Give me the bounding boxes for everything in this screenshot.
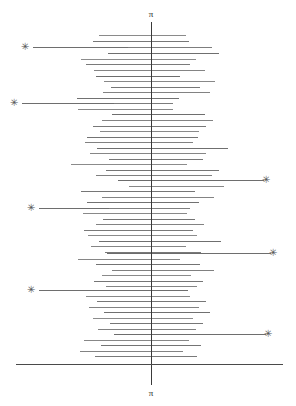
asterisk-marker: ✳ — [263, 329, 273, 339]
range-bar — [87, 202, 199, 203]
range-bar — [88, 235, 197, 236]
range-bar — [99, 241, 221, 242]
range-bar — [81, 59, 196, 60]
range-bar — [89, 307, 199, 308]
marker-leader-line — [211, 334, 266, 335]
range-bar — [108, 290, 188, 291]
range-bar — [112, 270, 214, 271]
range-bar — [104, 312, 210, 313]
asterisk-marker: ✳ — [26, 203, 36, 213]
range-bar — [93, 41, 189, 42]
asterisk-marker: ✳ — [9, 98, 19, 108]
range-bar — [80, 351, 183, 352]
range-bar — [93, 318, 193, 319]
range-bar — [102, 120, 213, 121]
range-bar — [78, 109, 173, 110]
range-bar — [94, 281, 203, 282]
range-bar — [83, 213, 187, 214]
marker-leader-line — [224, 180, 264, 181]
vertical-pi-axis — [151, 22, 152, 385]
range-bar — [102, 275, 191, 276]
range-bar — [103, 219, 195, 220]
range-bar — [84, 230, 193, 231]
range-bar — [96, 224, 204, 225]
range-bar — [96, 264, 200, 265]
range-bar — [107, 253, 205, 254]
range-bar — [106, 170, 219, 171]
range-bar — [111, 87, 200, 88]
range-bar — [90, 153, 206, 154]
range-bar — [85, 142, 193, 143]
axis-label-top-pi: π — [141, 10, 161, 19]
asterisk-marker: ✳ — [261, 175, 271, 185]
range-bar — [108, 53, 219, 54]
range-bar — [86, 64, 190, 65]
marker-leader-line — [33, 47, 128, 48]
range-bar — [84, 340, 189, 341]
range-bar — [94, 70, 205, 71]
range-bar — [100, 131, 199, 132]
range-bar — [97, 148, 228, 149]
figure-canvas: ✳✳✳✳✳✳✳ π π — [0, 0, 296, 406]
range-bar — [96, 175, 212, 176]
marker-leader-line — [39, 208, 109, 209]
range-bar — [86, 296, 190, 297]
range-bar — [114, 103, 173, 104]
range-bar — [110, 323, 203, 324]
range-bar — [129, 186, 224, 187]
range-bar — [109, 159, 203, 160]
range-bar — [87, 137, 198, 138]
range-bar — [78, 259, 180, 260]
asterisk-marker: ✳ — [268, 248, 278, 258]
horizontal-baseline-axis — [16, 364, 283, 365]
range-bar — [114, 334, 211, 335]
plot-area: ✳✳✳✳✳✳✳ — [0, 0, 296, 406]
asterisk-marker: ✳ — [26, 285, 36, 295]
range-bar — [77, 98, 179, 99]
range-bar — [93, 126, 206, 127]
range-bar — [81, 191, 195, 192]
range-bar — [99, 35, 186, 36]
range-bar — [104, 81, 215, 82]
range-bar — [102, 197, 214, 198]
range-bar — [112, 114, 205, 115]
range-bar — [109, 208, 190, 209]
range-bar — [118, 180, 224, 181]
range-bar — [128, 47, 212, 48]
range-bar — [95, 356, 197, 357]
marker-leader-line — [205, 253, 271, 254]
range-bar — [103, 92, 210, 93]
range-bar — [91, 246, 186, 247]
asterisk-marker: ✳ — [20, 42, 30, 52]
range-bar — [98, 329, 196, 330]
marker-leader-line — [39, 290, 108, 291]
range-bar — [71, 164, 187, 165]
axis-label-bottom-pi: π — [141, 389, 161, 398]
marker-leader-line — [22, 103, 114, 104]
range-bar — [96, 76, 180, 77]
